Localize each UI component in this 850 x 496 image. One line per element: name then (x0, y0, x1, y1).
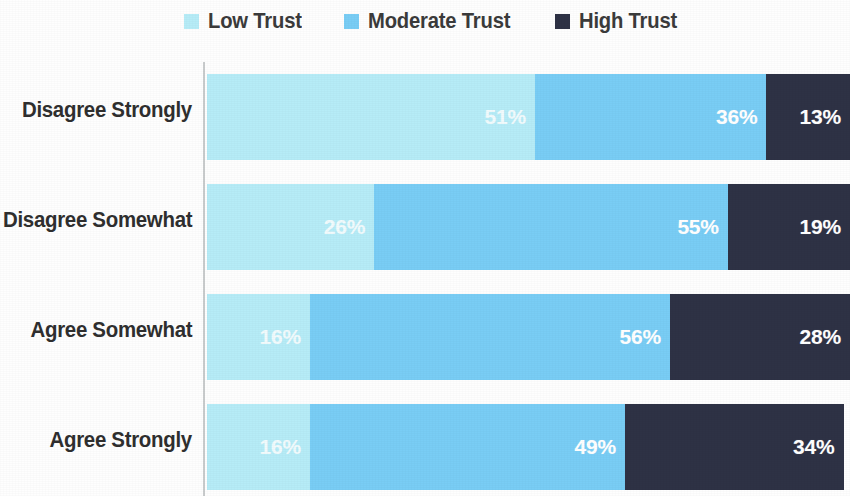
legend-swatch-icon (555, 14, 570, 29)
segment-value-label: 16% (259, 435, 300, 459)
category-label-text: Disagree Strongly (22, 98, 192, 123)
segment-value-label: 16% (259, 325, 300, 349)
category-label-text: Agree Somewhat (30, 318, 192, 343)
bar-segment-high-trust[interactable]: 13% (766, 74, 850, 160)
segment-value-label: 19% (800, 215, 841, 239)
bar-row: Agree Strongly 16% 49% 34% (0, 390, 850, 490)
bar-segment-moderate-trust[interactable]: 49% (310, 404, 625, 490)
legend-swatch-icon (184, 14, 199, 29)
category-label: Disagree Somewhat (0, 170, 192, 270)
stacked-bar: 26% 55% 19% (207, 184, 850, 270)
bar-row: Disagree Somewhat 26% 55% 19% (0, 170, 850, 270)
stacked-bar: 16% 56% 28% (207, 294, 850, 380)
category-label-text: Agree Strongly (50, 428, 192, 453)
segment-value-label: 36% (716, 105, 757, 129)
bar-segment-moderate-trust[interactable]: 55% (374, 184, 728, 270)
category-label: Disagree Strongly (0, 60, 192, 160)
bar-row: Disagree Strongly 51% 36% 13% (0, 60, 850, 160)
legend-item-moderate-trust[interactable]: Moderate Trust (344, 9, 519, 34)
bar-segment-low-trust[interactable]: 16% (207, 294, 310, 380)
bar-segment-low-trust[interactable]: 16% (207, 404, 310, 490)
bar-segment-low-trust[interactable]: 51% (207, 74, 535, 160)
segment-value-label: 13% (800, 105, 841, 129)
category-label: Agree Strongly (0, 390, 192, 490)
segment-value-label: 55% (677, 215, 718, 239)
bar-segment-low-trust[interactable]: 26% (207, 184, 374, 270)
bar-segment-moderate-trust[interactable]: 36% (535, 74, 766, 160)
segment-value-label: 34% (793, 435, 834, 459)
legend-item-label: Low Trust (208, 9, 302, 34)
legend-swatch-icon (344, 14, 359, 29)
bar-row: Agree Somewhat 16% 56% 28% (0, 280, 850, 380)
stacked-bar: 51% 36% 13% (207, 74, 850, 160)
plot-area: Disagree Strongly 51% 36% 13% Disagree S… (0, 60, 850, 496)
legend-item-high-trust[interactable]: High Trust (555, 9, 683, 34)
segment-value-label: 56% (620, 325, 661, 349)
chart-legend: Low Trust Moderate Trust High Trust (0, 0, 850, 42)
stacked-bar: 16% 49% 34% (207, 404, 850, 490)
legend-item-label: High Trust (579, 9, 677, 34)
segment-value-label: 26% (324, 215, 365, 239)
segment-value-label: 49% (575, 435, 616, 459)
legend-item-low-trust[interactable]: Low Trust (184, 9, 308, 34)
bar-segment-high-trust[interactable]: 19% (728, 184, 850, 270)
stacked-bar-chart: Low Trust Moderate Trust High Trust Disa… (0, 0, 850, 496)
segment-value-label: 51% (484, 105, 525, 129)
segment-value-label: 28% (800, 325, 841, 349)
bar-segment-moderate-trust[interactable]: 56% (310, 294, 670, 380)
category-label-text: Disagree Somewhat (3, 208, 192, 233)
category-label: Agree Somewhat (0, 280, 192, 380)
bar-segment-high-trust[interactable]: 34% (625, 404, 844, 490)
legend-item-label: Moderate Trust (368, 9, 510, 34)
bar-segment-high-trust[interactable]: 28% (670, 294, 850, 380)
